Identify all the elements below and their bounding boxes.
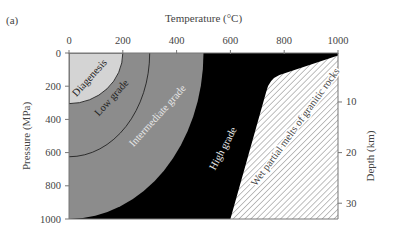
x-axis-title: Temperature (°C) [165, 12, 243, 25]
x-tick-label: 400 [169, 35, 185, 46]
y-tick-label: 600 [45, 147, 61, 158]
y-tick-label: 1000 [40, 214, 61, 225]
y-tick-label: 0 [56, 48, 61, 59]
x-tick-label: 0 [66, 35, 71, 46]
y2-tick-label: 30 [346, 198, 357, 209]
panel-label: (a) [6, 14, 19, 27]
x-tick-label: 200 [115, 35, 131, 46]
metamorphic-grade-diagram: (a) 020040060080010000200400600800100010… [0, 0, 397, 239]
x-tick-label: 800 [276, 35, 292, 46]
y-tick-label: 400 [45, 114, 61, 125]
y-axis-title: Pressure (MPa) [20, 102, 33, 170]
y2-axis-title: Depth (km) [364, 130, 377, 181]
x-tick-label: 1000 [328, 35, 349, 46]
y2-tick-label: 10 [346, 96, 357, 107]
y-tick-label: 200 [45, 81, 61, 92]
y-tick-label: 800 [45, 180, 61, 191]
x-tick-label: 600 [223, 35, 239, 46]
y2-tick-label: 20 [346, 147, 357, 158]
